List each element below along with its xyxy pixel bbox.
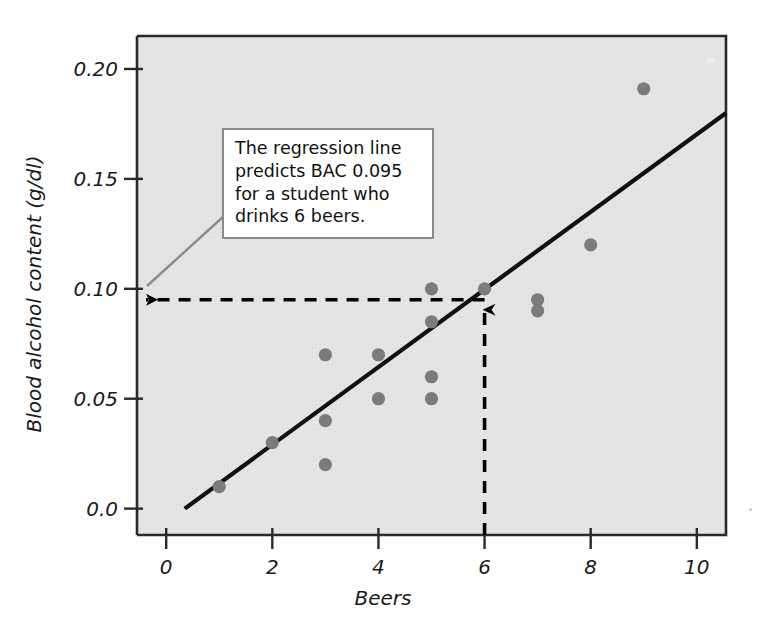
y-tick-label: 0.15 <box>30 167 118 191</box>
data-point <box>372 348 385 361</box>
data-point <box>425 392 438 405</box>
data-point <box>213 480 226 493</box>
y-tick-label: 0.05 <box>30 387 118 411</box>
data-point <box>637 82 650 95</box>
y-tick-label: 0.0 <box>30 497 118 521</box>
paper-speck <box>706 58 716 63</box>
annotation-line: The regression line <box>235 137 423 160</box>
data-point <box>319 414 332 427</box>
data-point <box>319 458 332 471</box>
x-axis-label: Beers <box>355 586 412 610</box>
x-tick-label: 10 <box>684 555 709 579</box>
data-point <box>531 293 544 306</box>
x-tick-label: 6 <box>478 555 491 579</box>
scatter-plot-figure: Blood alcohol content (g/dl) Beers 0.00.… <box>0 0 771 635</box>
x-tick-label: 2 <box>266 555 279 579</box>
data-point <box>425 282 438 295</box>
data-point <box>478 282 491 295</box>
x-tick-label: 4 <box>372 555 385 579</box>
annotation-line: drinks 6 beers. <box>235 205 423 228</box>
annotation-callout: The regression line predicts BAC 0.095 f… <box>222 128 434 239</box>
x-tick-label: 0 <box>160 555 173 579</box>
y-tick-label: 0.20 <box>30 57 118 81</box>
data-point <box>372 392 385 405</box>
annotation-line: for a student who <box>235 183 423 206</box>
data-point <box>425 370 438 383</box>
plot-canvas <box>0 0 771 635</box>
y-tick-label: 0.10 <box>30 277 118 301</box>
data-point <box>319 348 332 361</box>
data-point <box>266 436 279 449</box>
data-point <box>425 315 438 328</box>
x-tick-label: 8 <box>584 555 597 579</box>
data-point <box>584 238 597 251</box>
annotation-line: predicts BAC 0.095 <box>235 160 423 183</box>
paper-speck <box>749 508 752 511</box>
